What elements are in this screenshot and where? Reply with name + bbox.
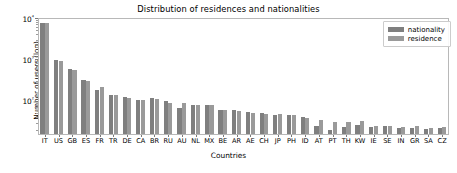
y-minor-tick-mark <box>36 88 38 89</box>
bar-nationality-ID <box>301 117 305 134</box>
chart-legend: nationality residence <box>383 21 451 47</box>
bar-nationality-MX <box>205 105 209 134</box>
y-tick-label: 10³ <box>0 55 34 65</box>
bar-group <box>245 19 259 134</box>
bar-nationality-ES <box>81 80 85 134</box>
bar-residence-DE <box>127 98 131 134</box>
bar-group <box>313 19 327 134</box>
bar-nationality-TR <box>109 95 113 134</box>
bar-nationality-DE <box>123 97 127 134</box>
bar-group <box>80 19 94 134</box>
bar-residence-KW <box>360 121 364 134</box>
bar-residence-GR <box>415 126 419 134</box>
y-minor-tick-mark <box>36 69 38 70</box>
y-minor-tick-mark <box>36 110 38 111</box>
y-minor-tick-mark <box>36 105 38 106</box>
y-minor-tick-mark <box>36 47 38 48</box>
bar-residence-TH <box>346 122 350 134</box>
bar-residence-CH <box>264 114 268 134</box>
bar-group <box>299 19 313 134</box>
bar-group <box>135 19 149 134</box>
bar-residence-TR <box>114 95 118 134</box>
bar-residence-SE <box>388 126 392 134</box>
bar-residence-AT <box>319 120 323 134</box>
bar-nationality-SA <box>424 129 428 134</box>
bar-nationality-PT <box>328 130 332 134</box>
bar-group <box>53 19 67 134</box>
bar-residence-BR <box>155 99 159 134</box>
legend-label-residence: residence <box>408 35 442 43</box>
bar-nationality-BR <box>150 98 154 134</box>
bar-group <box>354 19 368 134</box>
bar-residence-CA <box>141 100 145 134</box>
y-minor-tick-mark <box>36 76 38 77</box>
bar-nationality-CA <box>136 100 140 134</box>
bar-nationality-GR <box>410 128 414 134</box>
bar-residence-JP <box>278 114 282 134</box>
bar-group <box>327 19 341 134</box>
legend-label-nationality: nationality <box>408 26 445 34</box>
y-minor-tick-mark <box>36 81 38 82</box>
bar-group <box>94 19 108 134</box>
y-tick-mark <box>35 101 38 102</box>
bar-nationality-PH <box>287 115 291 134</box>
bar-group <box>190 19 204 134</box>
bar-residence-IT <box>45 23 49 134</box>
y-minor-tick-mark <box>36 40 38 41</box>
bar-residence-PT <box>333 122 337 134</box>
y-minor-tick-mark <box>36 72 38 73</box>
y-minor-tick-mark <box>36 30 38 31</box>
y-minor-tick-mark <box>36 103 38 104</box>
y-minor-tick-mark <box>36 20 38 21</box>
y-minor-tick-mark <box>36 113 38 114</box>
bar-nationality-AR <box>232 110 236 134</box>
bar-residence-ID <box>305 118 309 134</box>
bar-nationality-KW <box>355 125 359 134</box>
bar-nationality-AU <box>177 108 181 134</box>
bar-group <box>39 19 53 134</box>
bar-nationality-JP <box>273 115 277 134</box>
bar-nationality-FR <box>95 90 99 134</box>
legend-swatch-residence <box>388 36 404 41</box>
y-minor-tick-mark <box>36 24 38 25</box>
bar-residence-AR <box>237 111 241 134</box>
bar-nationality-IN <box>397 128 401 134</box>
bar-residence-CZ <box>442 127 446 134</box>
bar-residence-ES <box>86 81 90 134</box>
y-tick-label: 10⁴ <box>0 14 34 24</box>
bar-residence-IN <box>401 127 405 134</box>
bar-residence-US <box>59 61 63 134</box>
bar-residence-NL <box>196 105 200 134</box>
y-minor-tick-mark <box>36 63 38 64</box>
y-minor-tick-mark <box>36 34 38 35</box>
bar-residence-SA <box>429 128 433 134</box>
bar-group <box>108 19 122 134</box>
x-axis-label: Countries <box>0 151 457 160</box>
y-minor-tick-mark <box>36 61 38 62</box>
bar-group <box>340 19 354 134</box>
y-minor-tick-mark <box>36 123 38 124</box>
bar-group <box>258 19 272 134</box>
bar-nationality-AT <box>314 126 318 134</box>
bar-nationality-SE <box>383 126 387 134</box>
bar-residence-PH <box>292 115 296 134</box>
bar-group <box>121 19 135 134</box>
bar-residence-AU <box>182 103 186 134</box>
y-tick-mark <box>35 59 38 60</box>
legend-item-nationality: nationality <box>388 25 445 34</box>
bar-nationality-TH <box>342 127 346 134</box>
chart-title: Distribution of residences and nationali… <box>0 4 457 14</box>
bar-residence-FR <box>100 87 104 134</box>
y-tick-label: 10² <box>0 96 34 106</box>
y-minor-tick-mark <box>36 66 38 67</box>
bar-nationality-BE <box>218 110 222 134</box>
bar-nationality-AE <box>246 112 250 134</box>
bar-nationality-IT <box>40 23 44 134</box>
y-minor-tick-mark <box>36 130 38 131</box>
bar-residence-AE <box>251 113 255 134</box>
bar-group <box>149 19 163 134</box>
bar-group <box>231 19 245 134</box>
bar-nationality-RU <box>164 101 168 134</box>
bar-group <box>368 19 382 134</box>
bar-residence-MX <box>209 105 213 134</box>
